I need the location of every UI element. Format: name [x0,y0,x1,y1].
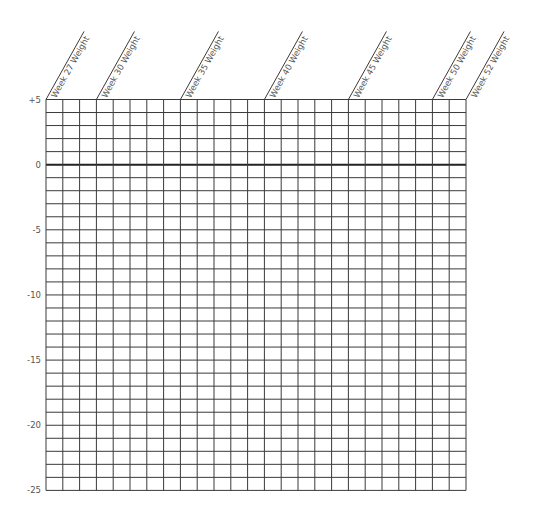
column-header-52: Week 52 Weight [469,34,512,100]
column-header-45: Week 45 Weight [351,34,394,100]
weight-tracking-chart: +50-5-10-15-20-25 Week 27 WeightWeek 30 … [0,0,542,520]
column-header-label: Week 27 Weight [49,34,92,100]
y-tick-label: -25 [27,485,41,495]
y-tick-label: -10 [27,290,41,300]
column-header-27: Week 27 Weight [49,34,92,100]
column-header-label: Week 40 Weight [267,34,310,100]
grid [46,100,466,491]
y-tick-label: -15 [27,355,41,365]
y-tick-label: +5 [28,95,41,105]
column-header-35: Week 35 Weight [183,34,226,100]
y-tick-label: -20 [27,420,41,430]
y-tick-label: -5 [33,225,41,235]
y-axis: +50-5-10-15-20-25 [27,95,41,496]
y-tick-label: 0 [36,160,41,170]
column-header-label: Week 30 Weight [99,34,142,100]
column-header-label: Week 35 Weight [183,34,226,100]
column-header-label: Week 52 Weight [469,34,512,100]
column-header-30: Week 30 Weight [99,34,142,100]
column-headers: Week 27 WeightWeek 30 WeightWeek 35 Weig… [46,31,512,99]
column-header-40: Week 40 Weight [267,34,310,100]
column-header-label: Week 45 Weight [351,34,394,100]
